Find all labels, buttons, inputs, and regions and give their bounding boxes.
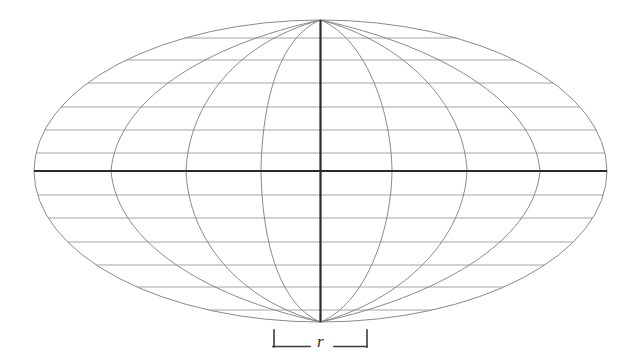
projection-diagram: [0, 0, 642, 359]
radius-label: r: [317, 333, 324, 350]
figure-root: r: [0, 0, 642, 359]
